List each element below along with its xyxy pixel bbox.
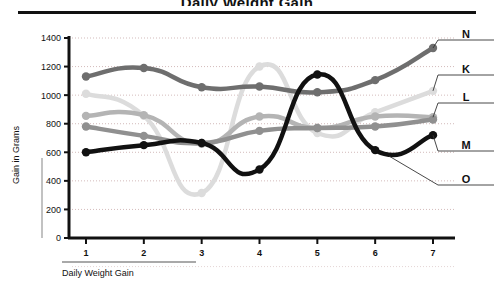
y-tick-label: 400: [46, 176, 61, 186]
y-tick-label: 1000: [41, 91, 61, 101]
y-tick-label: 800: [46, 119, 61, 129]
y-tick-label: 1200: [41, 62, 61, 72]
data-point-L: [140, 111, 148, 119]
data-point-K: [429, 87, 437, 95]
legend: NKLMO: [389, 28, 494, 185]
x-tick-label: 7: [430, 248, 435, 258]
x-axis-title: Daily Weight Gain: [62, 268, 134, 278]
data-point-N: [255, 82, 263, 90]
data-point-M: [255, 127, 263, 135]
data-point-O: [140, 141, 148, 149]
data-point-M: [140, 132, 148, 140]
data-point-O: [255, 165, 263, 173]
data-point-L: [371, 112, 379, 120]
y-tick-label: 200: [46, 205, 61, 215]
legend-label-K: K: [462, 63, 470, 75]
data-point-M: [82, 122, 90, 130]
data-point-N: [371, 76, 379, 84]
x-tick-label: 3: [199, 248, 204, 258]
chart-figure: Daily Weight Gain 0200400600800100012001…: [0, 0, 494, 293]
y-axis-title: Gain in Grams: [11, 105, 21, 205]
legend-label-O: O: [462, 173, 471, 185]
x-tick-label: 4: [257, 248, 262, 258]
data-point-N: [82, 72, 90, 80]
data-point-N: [313, 88, 321, 96]
data-point-M: [371, 122, 379, 130]
y-tick-label: 1400: [41, 33, 61, 43]
y-tick-label: 0: [56, 233, 61, 243]
data-point-O: [197, 139, 205, 147]
data-point-L: [255, 112, 263, 120]
series-group: [82, 44, 437, 197]
data-point-M: [313, 124, 321, 132]
data-point-K: [82, 90, 90, 98]
x-tick-label: 1: [83, 248, 88, 258]
line-chart-svg: 02004006008001000120014001234567NKLMO: [0, 0, 494, 293]
data-point-K: [197, 189, 205, 197]
legend-label-L: L: [463, 91, 470, 103]
x-tick-label: 5: [315, 248, 320, 258]
legend-leader-L: [433, 103, 494, 117]
x-tick-label: 2: [141, 248, 146, 258]
data-point-N: [140, 64, 148, 72]
legend-leader-K: [433, 75, 494, 91]
y-tick-label: 600: [46, 148, 61, 158]
legend-label-M: M: [461, 139, 470, 151]
data-point-K: [255, 62, 263, 70]
data-point-O: [313, 70, 321, 78]
data-point-O: [371, 146, 379, 154]
data-point-O: [82, 148, 90, 156]
x-tick-label: 6: [373, 248, 378, 258]
legend-label-N: N: [462, 28, 470, 40]
data-point-L: [82, 112, 90, 120]
legend-leader-N: [433, 40, 494, 48]
data-point-N: [197, 83, 205, 91]
